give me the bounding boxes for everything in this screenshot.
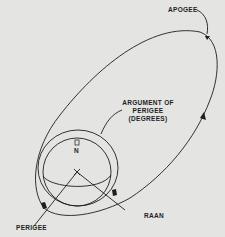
apogee-label: APOGEE	[168, 6, 198, 14]
orbit-ellipse	[36, 31, 218, 216]
raan-marker-icon	[112, 189, 117, 196]
equator-arc	[43, 175, 111, 186]
raan-line	[77, 172, 125, 210]
perigee-line	[34, 172, 77, 226]
orbit-diagram	[0, 0, 225, 237]
apogee-leader	[197, 10, 208, 34]
north-label: N	[74, 147, 79, 155]
argument-label-line1: ARGUMENT OF	[118, 99, 178, 107]
argument-label-line3: (DEGREES)	[118, 115, 178, 123]
raan-label: RAAN	[144, 212, 164, 220]
perigee-marker-icon	[41, 202, 47, 209]
argument-label-line2: PERIGEE	[118, 107, 178, 115]
north-pole-marker	[75, 140, 79, 145]
perigee-label: PERIGEE	[16, 224, 47, 232]
direction-arrow-icon	[200, 112, 206, 120]
argument-of-perigee-label: ARGUMENT OF PERIGEE (DEGREES)	[118, 99, 178, 123]
